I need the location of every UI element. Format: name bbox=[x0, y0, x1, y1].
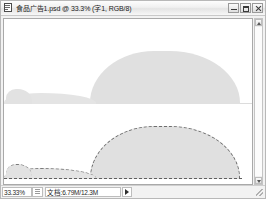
document-canvas-frame[interactable] bbox=[3, 18, 253, 185]
upper-shape bbox=[90, 51, 240, 104]
vertical-scrollbar[interactable] bbox=[254, 18, 263, 185]
document-size-field: 文档:6.79M/12.3M bbox=[45, 187, 121, 197]
window-title: 食品广告1.psd @ 33.3% (字1, RGB/8) bbox=[16, 4, 224, 13]
lower-shape-selected bbox=[90, 126, 240, 179]
close-icon[interactable] bbox=[252, 3, 263, 13]
scroll-up-arrow[interactable] bbox=[255, 19, 262, 26]
selection-marquee-baseline bbox=[4, 178, 242, 179]
window-controls bbox=[228, 3, 263, 13]
scrollbar-thumb[interactable] bbox=[255, 27, 262, 176]
status-spacer bbox=[132, 187, 255, 197]
minimize-button[interactable] bbox=[228, 3, 239, 13]
status-bar: 33.33% 文档:6.79M/12.3M bbox=[1, 185, 265, 198]
canvas-area bbox=[1, 16, 265, 185]
upper-ridge-bump bbox=[6, 89, 32, 104]
lower-ridge-bump bbox=[6, 164, 32, 179]
status-menu-arrow-icon[interactable] bbox=[122, 187, 132, 197]
photoshop-document-window: 食品广告1.psd @ 33.3% (字1, RGB/8) bbox=[0, 0, 266, 199]
scroll-down-arrow[interactable] bbox=[255, 177, 262, 184]
window-resize-handle[interactable] bbox=[255, 187, 264, 197]
resize-grip-icon[interactable] bbox=[32, 187, 43, 197]
maximize-button[interactable] bbox=[240, 3, 251, 13]
title-bar[interactable]: 食品广告1.psd @ 33.3% (字1, RGB/8) bbox=[1, 1, 265, 16]
document-canvas[interactable] bbox=[4, 19, 252, 184]
zoom-level-field[interactable]: 33.33% bbox=[2, 187, 32, 197]
document-icon bbox=[3, 3, 13, 13]
